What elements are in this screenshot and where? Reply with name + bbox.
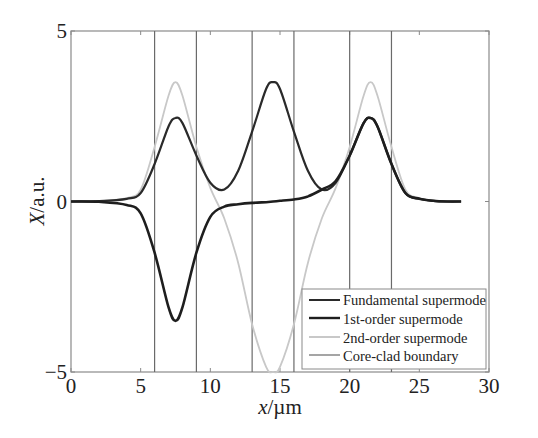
y-axis-var: X: [25, 211, 49, 226]
x-tick-label: 30: [479, 374, 500, 398]
x-tick-label: 10: [200, 374, 221, 398]
x-tick-label: 5: [135, 374, 146, 398]
x-tick-label: 20: [339, 374, 360, 398]
x-axis-unit: /µm: [268, 395, 302, 419]
y-tick-label: −5: [45, 360, 67, 384]
y-axis-label: X/a.u.: [25, 177, 49, 227]
legend-label: Fundamental supermode: [343, 292, 486, 308]
y-tick-label: 5: [57, 19, 68, 43]
supermode-chart: 051015202530 −505 x/µm X/a.u. Fundamenta…: [0, 0, 538, 438]
legend-label: 1st-order supermode: [343, 311, 463, 327]
legend: Fundamental supermode 1st-order supermod…: [302, 289, 486, 369]
x-axis-label: x/µm: [257, 395, 302, 419]
legend-label: 2nd-order supermode: [343, 330, 467, 346]
y-tick-label: 0: [57, 190, 68, 214]
x-tick-label: 25: [409, 374, 430, 398]
x-tick-label: 0: [66, 374, 77, 398]
y-axis-unit: /a.u.: [25, 177, 49, 213]
legend-label: Core-clad boundary: [343, 348, 459, 364]
